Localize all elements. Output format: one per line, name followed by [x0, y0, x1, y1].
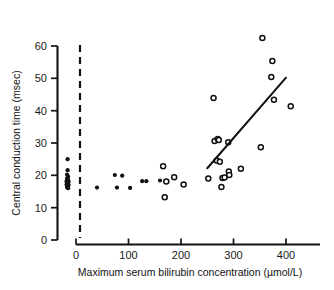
x-axis-title: Maximum serum bilirubin concentration (µ… — [78, 266, 302, 278]
y-tick-label-60: 60 — [35, 40, 47, 52]
series-2 — [161, 35, 294, 199]
y-tick-label-40: 40 — [35, 105, 47, 117]
x-tick-label-200: 200 — [172, 249, 190, 261]
x-tick-label-300: 300 — [224, 249, 242, 261]
x-tick-label-400: 400 — [277, 249, 295, 261]
data-point-open — [219, 184, 224, 189]
scatter-plot: 0 10 20 30 40 50 60 Central conduction t… — [0, 0, 334, 290]
data-point-open — [211, 96, 216, 101]
y-tick-label-30: 30 — [35, 137, 47, 149]
x-tick-label-0: 0 — [73, 249, 79, 261]
data-point-filled — [158, 178, 162, 182]
data-point-open — [238, 166, 243, 171]
data-point-filled — [66, 157, 70, 161]
y-tick-label-10: 10 — [35, 202, 47, 214]
data-point-filled — [128, 186, 132, 190]
data-point-filled — [120, 174, 124, 178]
data-point-filled — [113, 173, 117, 177]
x-axis: 0 100 200 300 400 Maximum serum bilirubi… — [73, 239, 320, 279]
series-1 — [95, 173, 162, 190]
data-point-filled — [140, 179, 144, 183]
data-point-open — [270, 58, 275, 63]
data-point-filled — [66, 186, 70, 190]
data-point-open — [288, 104, 293, 109]
data-point-open — [216, 138, 221, 143]
data-point-open — [271, 97, 276, 102]
data-point-filled — [66, 168, 70, 172]
data-point-open — [217, 159, 222, 164]
data-point-open — [172, 175, 177, 180]
data-point-open — [260, 35, 265, 40]
data-point-open — [227, 173, 232, 178]
data-point-open — [269, 75, 274, 80]
data-point-open — [162, 195, 167, 200]
data-point-filled — [144, 179, 148, 183]
series-0 — [64, 157, 70, 190]
data-point-open — [258, 145, 263, 150]
y-tick-label-0: 0 — [41, 234, 47, 246]
y-axis-title: Central conduction time (msec) — [10, 70, 22, 215]
data-point-filled — [115, 186, 119, 190]
y-tick-label-20: 20 — [35, 169, 47, 181]
data-point-open — [164, 179, 169, 184]
x-tick-label-100: 100 — [119, 249, 137, 261]
data-point-open — [161, 164, 166, 169]
data-points-layer — [64, 35, 293, 199]
figure-container: 0 10 20 30 40 50 60 Central conduction t… — [0, 0, 334, 290]
data-point-filled — [95, 186, 99, 190]
data-point-open — [206, 176, 211, 181]
y-tick-label-50: 50 — [35, 72, 47, 84]
y-axis: 0 10 20 30 40 50 60 Central conduction t… — [10, 40, 58, 246]
data-point-open — [181, 182, 186, 187]
regression-line — [207, 78, 286, 169]
